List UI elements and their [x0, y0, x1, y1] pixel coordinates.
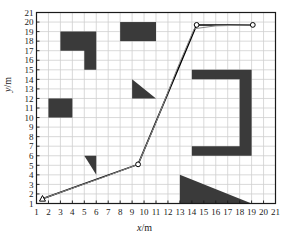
x-tick-label: 12	[163, 207, 172, 217]
x-axis-unit: /m	[141, 222, 152, 233]
y-tick-label: 16	[25, 55, 35, 65]
x-tick-label: 20	[259, 207, 269, 217]
y-tick-label: 10	[25, 113, 35, 123]
obstacle-rect-left	[48, 98, 72, 117]
x-axis-title: x/m	[0, 222, 289, 233]
y-tick-label: 2	[29, 189, 34, 199]
x-tick-label: 19	[247, 207, 257, 217]
x-tick-label: 3	[58, 207, 63, 217]
x-tick-label: 10	[140, 207, 150, 217]
x-tick-label: 7	[106, 207, 111, 217]
y-tick-label: 4	[29, 170, 34, 180]
y-tick-label: 11	[25, 103, 34, 113]
figure-container: 123456789101112131415161718192021 123456…	[0, 0, 289, 241]
y-tick-label: 21	[25, 8, 34, 18]
x-tick-label: 6	[94, 207, 99, 217]
x-tick-label: 15	[199, 207, 209, 217]
x-tick-label: 5	[82, 207, 87, 217]
x-tick-label: 17	[223, 207, 233, 217]
y-tick-label: 20	[25, 17, 35, 27]
x-tick-label: 2	[46, 207, 51, 217]
x-axis-tick-labels: 123456789101112131415161718192021	[34, 207, 280, 217]
x-tick-label: 4	[70, 207, 75, 217]
x-tick-label: 16	[211, 207, 221, 217]
y-tick-label: 9	[29, 122, 34, 132]
y-tick-label: 15	[25, 65, 35, 75]
y-tick-label: 12	[25, 94, 34, 104]
y-tick-label: 7	[29, 141, 34, 151]
y-tick-label: 14	[25, 75, 35, 85]
obstacle-rect-top-middle	[120, 22, 156, 41]
x-tick-label: 18	[235, 207, 245, 217]
x-tick-label: 21	[271, 207, 280, 217]
y-tick-label: 19	[25, 27, 35, 37]
y-tick-label: 1	[29, 199, 34, 209]
waypoint-marker	[194, 23, 199, 28]
goal-marker	[250, 23, 255, 28]
waypoint-marker	[136, 162, 141, 167]
y-tick-label: 13	[25, 84, 35, 94]
x-tick-label: 11	[152, 207, 161, 217]
y-axis-var: y	[2, 88, 13, 92]
y-tick-label: 8	[29, 132, 34, 142]
y-tick-label: 3	[29, 180, 34, 190]
plot-svg: 123456789101112131415161718192021 123456…	[0, 0, 289, 241]
y-tick-label: 17	[25, 46, 35, 56]
x-tick-label: 8	[118, 207, 123, 217]
x-tick-label: 9	[130, 207, 135, 217]
y-tick-label: 5	[29, 161, 34, 171]
y-axis-title: y/m	[2, 77, 13, 92]
x-tick-label: 1	[34, 207, 39, 217]
x-tick-label: 13	[175, 207, 185, 217]
y-tick-label: 6	[29, 151, 34, 161]
x-tick-label: 14	[187, 207, 197, 217]
y-tick-label: 18	[25, 36, 35, 46]
y-axis-unit: /m	[2, 77, 13, 88]
